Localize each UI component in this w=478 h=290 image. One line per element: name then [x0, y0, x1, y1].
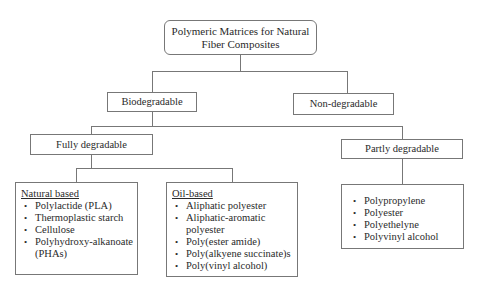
list-item: Poly(alkyene succinate)s [172, 248, 293, 260]
connector-fully-bar [76, 168, 233, 169]
list-item: Polyethelyne [350, 219, 459, 231]
connector-to-natural-based [76, 168, 77, 182]
oil-based-heading: Oil-based [172, 188, 293, 200]
root-node: Polymeric Matrices for Natural Fiber Com… [164, 20, 317, 55]
root-label-line2: Fiber Composites [202, 38, 280, 51]
connector-biodegradable-bar [91, 126, 403, 127]
connector-to-fully-degradable [91, 126, 92, 134]
oil-based-list: Aliphatic polyester Aliphatic-aromatic p… [172, 200, 293, 272]
partly-degradable-list-node: Polypropylene Polyester Polyethelyne Pol… [341, 184, 464, 249]
list-item: Poly(vinyl alcohol) [172, 260, 293, 272]
natural-based-node: Natural based Polylactide (PLA) Thermopl… [15, 182, 138, 275]
natural-based-list: Polylactide (PLA) Thermoplastic starch C… [21, 200, 133, 260]
partly-degradable-label: Partly degradable [365, 143, 439, 155]
connector-root-stem [240, 55, 241, 71]
fully-degradable-node: Fully degradable [30, 134, 153, 155]
connector-to-non-degradable [347, 71, 348, 93]
list-item: Cellulose [21, 224, 133, 236]
non-degradable-node: Non-degradable [293, 93, 394, 115]
oil-based-node: Oil-based Aliphatic polyester Aliphatic-… [166, 182, 298, 277]
connector-root-bar [152, 71, 348, 72]
list-item: Polylactide (PLA) [21, 200, 133, 212]
connector-biodegradable-stem [152, 112, 153, 126]
fully-degradable-label: Fully degradable [56, 139, 127, 151]
connector-fully-stem [91, 155, 92, 168]
list-item: Polyhydroxy-alkanoate (PHAs) [21, 236, 133, 260]
list-item: Aliphatic-aromatic polyester [172, 212, 293, 236]
list-item: Aliphatic polyester [172, 200, 293, 212]
list-item: Polyester [350, 207, 459, 219]
biodegradable-node: Biodegradable [107, 92, 197, 112]
non-degradable-label: Non-degradable [310, 98, 378, 110]
natural-based-heading: Natural based [21, 188, 133, 200]
list-item: Polyvinyl alcohol [350, 231, 459, 243]
root-label-line1: Polymeric Matrices for Natural [172, 25, 310, 38]
biodegradable-label: Biodegradable [121, 96, 182, 108]
connector-to-partly-degradable [402, 126, 403, 139]
list-item: Polypropylene [350, 195, 459, 207]
connector-to-biodegradable [152, 71, 153, 92]
partly-degradable-node: Partly degradable [341, 139, 463, 159]
partly-degradable-list: Polypropylene Polyester Polyethelyne Pol… [350, 195, 459, 243]
list-item: Poly(ester amide) [172, 236, 293, 248]
connector-partly-stem [402, 159, 403, 184]
connector-to-oil-based [232, 168, 233, 182]
list-item: Thermoplastic starch [21, 212, 133, 224]
